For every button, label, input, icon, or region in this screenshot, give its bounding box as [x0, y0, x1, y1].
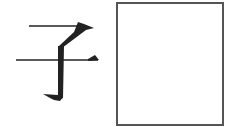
empty-answer-box[interactable]: [116, 2, 224, 126]
chinese-character-zi: 子: [12, 12, 108, 112]
stroke-middle-end: [88, 55, 99, 61]
stroke-vertical: [58, 46, 64, 100]
